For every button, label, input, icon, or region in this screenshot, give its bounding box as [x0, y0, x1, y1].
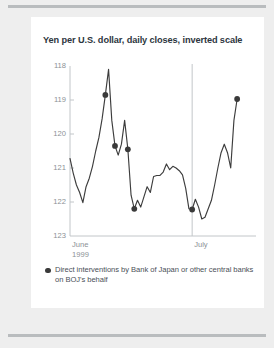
y-axis-tick-label: 120: [44, 129, 66, 138]
chart-card: Yen per U.S. dollar, daily closes, inver…: [31, 17, 264, 308]
y-axis-tick-label: 119: [44, 95, 66, 104]
legend-label: Direct interventions by Bank of Japan or…: [55, 265, 255, 285]
x-axis-tick-label: June1999: [72, 240, 89, 259]
y-axis-tick-label: 118: [44, 61, 66, 70]
filled-circle-icon: [45, 268, 51, 274]
y-axis-tick-label: 121: [44, 163, 66, 172]
chart-legend: Direct interventions by Bank of Japan or…: [45, 265, 255, 285]
chart-page: Yen per U.S. dollar, daily closes, inver…: [0, 0, 274, 348]
x-axis-tick-label: July: [194, 240, 208, 250]
bottom-divider-rule: [8, 334, 266, 337]
y-axis-tick-label: 123: [44, 231, 66, 240]
top-divider-rule: [8, 5, 266, 8]
y-axis-tick-label: 122: [44, 197, 66, 206]
